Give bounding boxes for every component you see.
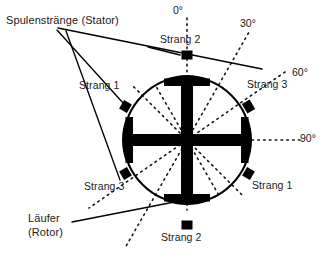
label-spulenstraenge-stator: Spulenstränge (Stator)	[6, 14, 119, 27]
leader-to-strang3-lower-left	[66, 31, 120, 180]
angle-label-60: 60°	[292, 66, 308, 78]
leader-to-rotor	[72, 196, 205, 222]
rotor-pole-right-block	[241, 117, 249, 163]
angle-label-0: 0°	[173, 4, 183, 16]
label-strang2-top: Strang 2	[160, 33, 201, 45]
coil-strang2-bottom	[182, 221, 193, 230]
label-strang2-bottom: Strang 2	[161, 231, 202, 243]
rotor-bar-horizontal	[125, 134, 249, 146]
rotor-pole-bottom-block	[164, 194, 210, 202]
label-laeufer-rotor: Läufer (Rotor)	[28, 212, 63, 240]
motor-cross-section-diagram: Spulenstränge (Stator) Strang 1 Strang 2…	[0, 0, 331, 255]
label-laeufer-line1: Läufer	[28, 212, 63, 226]
rotor-pole-left-block	[126, 117, 134, 163]
label-rotor-line2: (Rotor)	[28, 226, 63, 240]
rotor-pole-top-block	[164, 79, 210, 87]
leader-to-strang1-upper-left	[57, 30, 124, 104]
leader-lines-stator	[57, 28, 262, 180]
label-strang1-lower-right: Strang 1	[252, 179, 293, 191]
angle-label-30: 30°	[240, 17, 256, 29]
label-strang1-upper-left: Strang 1	[79, 79, 120, 91]
label-strang3-lower-left: Strang 3	[84, 180, 125, 192]
angle-label-90: 90°	[300, 132, 316, 144]
label-strang3-upper-right: Strang 3	[247, 78, 288, 90]
